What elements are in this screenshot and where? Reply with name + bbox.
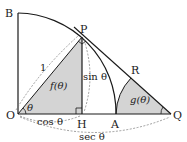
label-sec: sec θ	[79, 131, 105, 142]
label-cos: cos θ	[37, 116, 63, 127]
label-sin: sin θ	[83, 71, 107, 82]
label-a: A	[110, 118, 120, 131]
label-f: f(θ)	[49, 80, 68, 91]
label-r: R	[131, 64, 140, 77]
label-theta-o: θ	[27, 102, 33, 113]
label-g: g(θ)	[130, 94, 150, 105]
label-o: O	[6, 109, 15, 122]
trig-diagram: B P R O H A Q 1 θ f(θ) g(θ) sin θ cos θ …	[0, 0, 187, 142]
label-one: 1	[40, 62, 46, 73]
label-p: P	[80, 23, 88, 36]
label-q: Q	[173, 109, 182, 122]
label-h: H	[77, 118, 87, 131]
label-b: B	[5, 7, 13, 20]
